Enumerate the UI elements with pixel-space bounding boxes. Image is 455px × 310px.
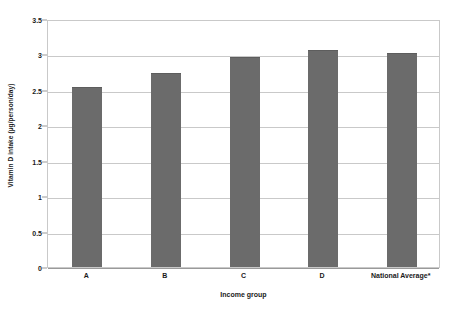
bar[interactable] [387,53,417,267]
y-axis-tick-label: 1.5 [32,158,42,165]
x-axis-tick-labels: ABCDNational Average* [47,272,440,286]
x-axis-line [48,268,439,269]
x-axis-title: Income group [47,291,440,298]
bar-chart-figure: Vitamin D intake (µg/person/day) 00.511.… [0,0,455,310]
y-axis-tick-label: 0.5 [32,229,42,236]
y-axis-title-text: Vitamin D intake (µg/person/day) [7,83,14,187]
x-axis-tick-label: C [241,272,246,279]
x-axis-tick-label: D [320,272,325,279]
y-axis-tick-label: 2.5 [32,87,42,94]
x-axis-tick-label: B [162,272,167,279]
y-axis-title: Vitamin D intake (µg/person/day) [0,0,20,270]
y-axis-tick-label: 3.5 [32,17,42,24]
bar[interactable] [230,57,260,267]
bar[interactable] [72,87,102,267]
bars-group [48,21,439,267]
x-axis-tick-label: A [84,272,89,279]
plot-area [47,20,440,268]
x-axis-tick-label: National Average* [371,272,430,279]
y-axis-tick-labels: 00.511.522.533.5 [20,20,42,268]
bar[interactable] [308,50,338,267]
bar[interactable] [151,73,181,267]
